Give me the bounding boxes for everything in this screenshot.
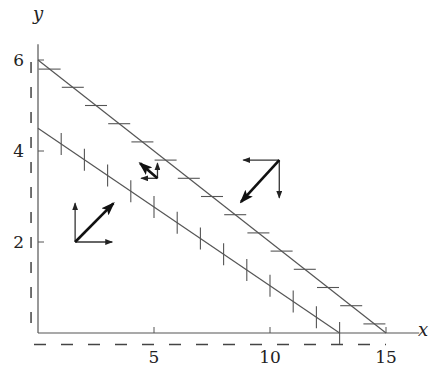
vectors-right: [241, 160, 279, 202]
series-group: [38, 60, 386, 344]
resultant-arrow: [241, 160, 279, 202]
dashed-guides: [31, 62, 386, 344]
x-tick-label: 15: [375, 347, 397, 367]
vectors-middle: [140, 163, 157, 178]
y-tick-label: 4: [13, 141, 24, 161]
y-axis-label: y: [32, 3, 44, 24]
x-tick-label: 10: [259, 347, 281, 367]
resultant-arrow: [140, 163, 157, 178]
y-tick-label: 6: [13, 50, 24, 70]
lower-line: [38, 128, 340, 333]
resultant-arrow: [75, 203, 113, 242]
y-tick-label: 2: [13, 232, 24, 252]
x-axis-label: x: [418, 319, 428, 340]
x-tick-label: 5: [149, 347, 160, 367]
axes: 51015246: [13, 44, 419, 367]
chart: 51015246 y x: [0, 0, 440, 373]
vectors-left: [75, 203, 113, 242]
